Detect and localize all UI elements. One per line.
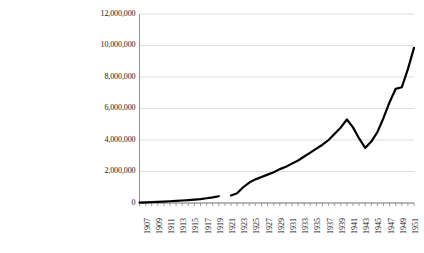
- data-line: [140, 196, 219, 202]
- x-axis-tick-label: 1907: [143, 218, 152, 234]
- x-axis-tick-label: 1911: [167, 218, 176, 234]
- x-axis-tick-label: 1947: [387, 218, 396, 234]
- x-axis-tick-label: 1933: [301, 218, 310, 234]
- line-chart: 02,000,0004,000,0006,000,0008,000,00010,…: [0, 0, 424, 253]
- x-axis-tick-label: 1919: [216, 218, 225, 234]
- y-axis-tick-label: 8,000,000: [104, 72, 135, 81]
- data-line: [231, 48, 414, 196]
- y-axis-tick-label: 12,000,000: [100, 9, 135, 18]
- y-axis-tick-label: 0: [132, 198, 136, 207]
- x-axis-tick-label: 1915: [191, 218, 200, 234]
- x-axis-tick-label: 1949: [399, 218, 408, 234]
- y-axis-tick-label: 10,000,000: [100, 40, 135, 49]
- x-axis-tick-label: 1941: [350, 218, 359, 234]
- chart-canvas: [0, 0, 424, 253]
- x-axis-tick-label: 1913: [179, 218, 188, 234]
- x-axis-tick-label: 1921: [228, 218, 237, 234]
- x-axis-tick-label: 1931: [289, 218, 298, 234]
- x-axis-tick-label: 1939: [338, 218, 347, 234]
- x-axis-tick-label: 1925: [252, 218, 261, 234]
- y-axis-tick-label: 6,000,000: [104, 103, 135, 112]
- x-axis-tick-label: 1951: [411, 218, 420, 234]
- x-axis-tick-label: 1943: [362, 218, 371, 234]
- x-axis-tick-label: 1909: [155, 218, 164, 234]
- y-axis-tick-label: 2,000,000: [104, 166, 135, 175]
- x-axis-tick-label: 1935: [313, 218, 322, 234]
- x-axis-tick-label: 1945: [374, 218, 383, 234]
- y-axis-tick-label: 4,000,000: [104, 135, 135, 144]
- x-axis-tick-label: 1929: [277, 218, 286, 234]
- x-axis-tick-label: 1923: [240, 218, 249, 234]
- x-axis-tick-label: 1927: [265, 218, 274, 234]
- x-axis-tick-label: 1937: [326, 218, 335, 234]
- x-axis-tick-label: 1917: [204, 218, 213, 234]
